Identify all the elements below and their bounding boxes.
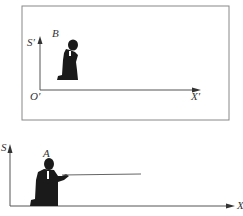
diagram-canvas [0, 0, 243, 216]
x-axis-arrow-icon [226, 204, 235, 209]
y-axis-prime-arrow-icon [38, 36, 43, 44]
origin-prime-label: O′ [30, 91, 40, 102]
moving-frame-box [22, 6, 229, 120]
y-axis-label: S [1, 142, 7, 153]
pointer-rod [62, 174, 141, 175]
x-axis-prime-label: X′ [191, 91, 200, 102]
observer-a-icon [30, 158, 69, 206]
y-axis-arrow-icon [8, 144, 13, 153]
reference-frames-diagram: B S′ O′ X′ A S X [0, 0, 243, 216]
observer-a-label: A [43, 148, 50, 159]
x-axis-label: X [237, 200, 243, 211]
y-axis-prime-label: S′ [27, 37, 35, 48]
observer-b-icon [57, 40, 78, 81]
observer-b-label: B [52, 28, 59, 39]
